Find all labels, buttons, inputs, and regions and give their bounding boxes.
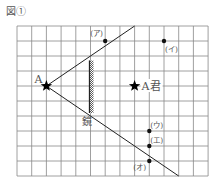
grid (17, 26, 208, 176)
mirror-diagram: 鏡 (ア)(イ)(ウ)(エ)(オ) AA君 (0, 0, 221, 196)
point-marker (103, 39, 107, 43)
person-a-kun-label: A君 (141, 80, 161, 93)
person-a-label: A (33, 73, 43, 86)
point-marker (162, 39, 166, 43)
point-label: (ウ) (150, 121, 163, 130)
point-label: (ア) (90, 29, 103, 38)
points: (ア)(イ)(ウ)(エ)(オ) (90, 29, 178, 172)
point-marker (147, 159, 151, 163)
mirror-label: 鏡 (82, 115, 92, 127)
point-label: (オ) (133, 163, 146, 172)
point-label: (エ) (150, 136, 163, 145)
point-label: (イ) (165, 45, 178, 54)
